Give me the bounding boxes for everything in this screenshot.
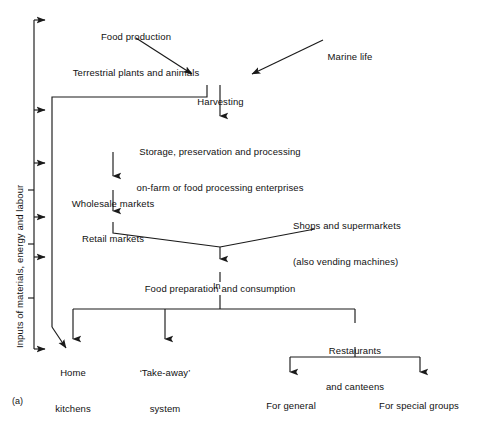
node-marine-life: Marine life xyxy=(300,27,400,87)
node-harvesting-line1: Harvesting xyxy=(178,96,263,108)
node-general-public-line1: For general xyxy=(252,400,330,412)
node-takeaway-system-line1: ‘Take-away’ xyxy=(125,367,205,379)
figure-caption-label: (a) xyxy=(12,396,23,406)
axis-label-inputs: Inputs of materials, energy and labour xyxy=(14,185,25,348)
node-marine-life-line1: Marine life xyxy=(300,51,400,63)
node-shops-supermarkets: Shops and supermarkets (also vending mac… xyxy=(293,196,483,292)
page-bottom-artifact xyxy=(0,414,488,430)
connector-label-in: In xyxy=(213,281,221,291)
node-special-groups-line1: For special groups xyxy=(379,400,488,412)
node-food-production-line1: Food production xyxy=(46,31,226,43)
flowchart-figure: Inputs of materials, energy and labour F… xyxy=(0,0,488,430)
node-home-kitchens-line1: Home xyxy=(38,367,108,379)
node-restaurants-canteens-line1: Restaurants xyxy=(310,345,400,357)
node-shops-supermarkets-line2: (also vending machines) xyxy=(293,256,483,268)
node-retail-markets-line1: Retail markets xyxy=(58,233,168,245)
node-storage-line1: Storage, preservation and processing xyxy=(70,146,370,158)
node-shops-supermarkets-line1: Shops and supermarkets xyxy=(293,220,483,232)
